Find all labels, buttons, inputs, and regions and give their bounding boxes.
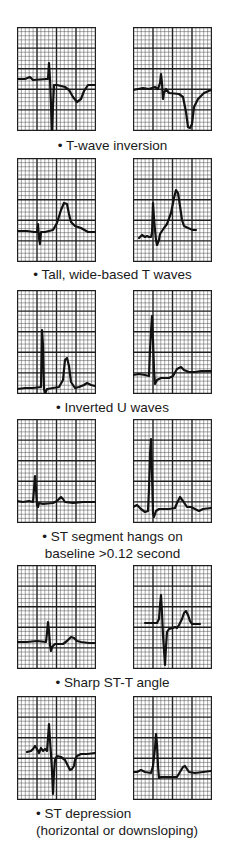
caption-line: baseline >0.12 second [0,545,225,562]
ecg-grid [17,290,96,394]
caption-line: • ST depression [36,805,198,822]
ecg-grid [133,565,212,669]
ecg-strip [133,696,212,800]
caption-inverted-u-waves: • Inverted U waves [0,399,225,416]
ecg-strip [133,290,212,394]
ecg-grid [17,419,96,523]
ecg-strip [17,27,96,131]
ecg-grid [17,696,96,800]
ecg-strip [17,565,96,669]
ecg-panel-st-depression-left [17,696,96,800]
ecg-grid [17,158,96,262]
ecg-grid [133,696,212,800]
ecg-strip [17,419,96,523]
caption-t-wave-inversion: • T-wave inversion [0,137,225,154]
caption-sharp-st-t-angle: • Sharp ST-T angle [0,674,225,691]
ecg-grid [17,27,96,131]
ecg-panel-tall-t-waves-left [17,158,96,262]
ecg-strip [133,419,212,523]
ecg-panel-sharp-st-t-right [133,565,212,669]
ecg-grid [17,565,96,669]
ecg-panel-st-hangs-left [17,419,96,523]
ecg-grid [133,27,212,131]
ecg-panel-inverted-u-waves-left [17,290,96,394]
ecg-panel-t-wave-inversion-right [133,27,212,131]
ecg-panel-tall-t-waves-right [133,158,212,262]
ecg-panel-st-hangs-right [133,419,212,523]
ecg-strip [133,565,212,669]
ecg-grid [133,290,212,394]
caption-st-depression: • ST depression(horizontal or downslopin… [36,805,198,839]
ecg-strip [133,158,212,262]
caption-line: (horizontal or downsloping) [36,822,198,839]
ecg-panel-st-depression-right [133,696,212,800]
ecg-strip [17,290,96,394]
caption-st-segment-hangs: • ST segment hangs onbaseline >0.12 seco… [0,528,225,562]
caption-line: • Sharp ST-T angle [0,674,225,691]
ecg-panel-t-wave-inversion-left [17,27,96,131]
ecg-strip [133,27,212,131]
ecg-panel-sharp-st-t-left [17,565,96,669]
caption-line: • Inverted U waves [0,399,225,416]
ecg-strip [17,696,96,800]
caption-line: • Tall, wide-based T waves [0,266,225,283]
ecg-panel-inverted-u-waves-right [133,290,212,394]
ecg-strip [17,158,96,262]
caption-line: • ST segment hangs on [0,528,225,545]
caption-tall-t-waves: • Tall, wide-based T waves [0,266,225,283]
caption-line: • T-wave inversion [0,137,225,154]
